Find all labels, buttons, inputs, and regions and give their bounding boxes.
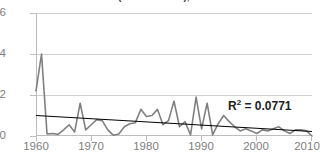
r-squared-annotation: R2 = 0.0771 (228, 99, 292, 113)
x-axis-label-2000: 2000 (234, 141, 278, 153)
x-axis-label-1960: 1960 (14, 141, 58, 153)
y-axis-label-0: 0 (0, 130, 6, 142)
chart-title: Growth (as % Returns), 1960-2010 (0, 0, 320, 2)
y-axis-label-0.6: 0.6 (0, 7, 6, 19)
trendline (36, 13, 312, 136)
x-axis-label-1990: 1990 (179, 141, 223, 153)
plot-area (36, 13, 312, 136)
x-axis-label-2010: 2010 (285, 141, 325, 153)
x-axis-label-1980: 1980 (124, 141, 168, 153)
x-axis-label-1970: 1970 (69, 141, 113, 153)
r-squared-value: = 0.0771 (241, 99, 291, 113)
r-squared-prefix: R (228, 99, 237, 113)
y-axis-label-0.4: 0.4 (0, 48, 6, 60)
y-axis-label-0.2: 0.2 (0, 89, 6, 101)
